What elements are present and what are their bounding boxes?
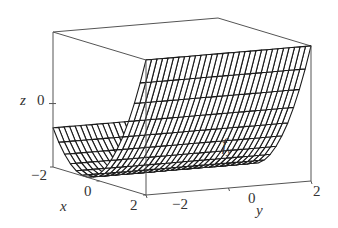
surface-mesh <box>53 46 311 177</box>
x-axis-label: x <box>60 199 67 214</box>
y-tick-2: 2 <box>313 184 321 199</box>
z-tick-0: 0 <box>37 93 45 108</box>
y-tick-0: 0 <box>248 191 256 206</box>
surface-label-subscript: y <box>227 144 232 156</box>
surface-label: fy <box>222 136 232 153</box>
x-tick-2: 2 <box>130 198 138 213</box>
x-tick-0: 0 <box>84 184 92 199</box>
y-tick-neg2: −2 <box>172 197 188 212</box>
x-tick-neg2: −2 <box>31 168 47 183</box>
surface-plot <box>0 0 338 228</box>
z-axis-label: z <box>20 93 26 108</box>
y-axis-label: y <box>256 203 263 218</box>
